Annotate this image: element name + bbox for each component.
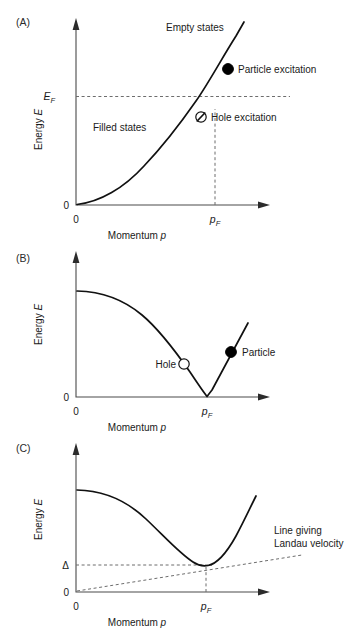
panel-a-y-axis-arrow	[73, 18, 80, 30]
panel-a-empty-states-label: Empty states	[166, 22, 224, 33]
panel-b-quasiparticle-curve	[77, 291, 248, 397]
panel-b-x-axis-title: Momentum p	[108, 422, 167, 433]
three-panel-dispersion-figure: (A) Particle excitation Hole excitation …	[0, 0, 358, 638]
panel-b-xtick-origin: 0	[73, 406, 79, 417]
panel-a: (A) Particle excitation Hole excitation …	[16, 16, 316, 241]
panel-a-xtick-fermi-momentum: pF	[209, 213, 221, 228]
panel-c-landau-annotation-line2: Landau velocity	[274, 538, 344, 549]
panel-a-y-axis-title: Energy E	[33, 109, 44, 150]
panel-c-gapped-dispersion-curve	[77, 490, 256, 566]
panel-b-xtick-fermi-momentum: pF	[201, 405, 213, 420]
panel-b: (B) Hole Particle 0 0 pF Energy E Moment…	[16, 251, 276, 433]
panel-c-label: (C)	[16, 442, 31, 454]
panel-c-y-axis-arrow	[73, 443, 80, 455]
panel-c: (C) Line giving Landau velocity Δ 0 0 pF…	[16, 442, 344, 628]
panel-b-hole-label: Hole	[155, 359, 176, 370]
panel-a-x-axis-title: Momentum p	[108, 230, 167, 241]
panel-a-ytick-zero: 0	[63, 200, 69, 211]
panel-c-y-axis-title: Energy E	[33, 499, 44, 540]
panel-a-xtick-origin: 0	[73, 214, 79, 225]
panel-b-y-axis-arrow	[73, 251, 80, 263]
panel-c-x-axis-title: Momentum p	[108, 617, 167, 628]
panel-a-hole-excitation-label: Hole excitation	[211, 112, 277, 123]
panel-a-x-axis-arrow	[258, 202, 270, 209]
panel-a-label: (A)	[16, 16, 30, 28]
panel-c-axes	[76, 455, 262, 592]
panel-b-particle-label: Particle	[242, 347, 276, 358]
panel-b-hole-marker	[179, 359, 189, 369]
panel-b-axes	[76, 263, 262, 397]
panel-a-filled-states-label: Filled states	[93, 122, 146, 133]
panel-a-ytick-fermi-energy: EF	[43, 90, 55, 105]
panel-c-x-axis-arrow	[258, 589, 270, 596]
panel-b-y-axis-title: Energy E	[33, 304, 44, 345]
panel-b-particle-marker	[226, 347, 237, 358]
panel-b-x-axis-arrow	[258, 394, 270, 401]
panel-c-ytick-gap: Δ	[62, 560, 69, 571]
panel-a-particle-excitation-label: Particle excitation	[238, 64, 316, 75]
panel-a-particle-excitation-marker	[223, 64, 234, 75]
panel-b-label: (B)	[16, 252, 30, 264]
panel-c-xtick-origin: 0	[73, 601, 79, 612]
panel-c-xtick-fermi-momentum: pF	[200, 600, 212, 615]
panel-c-ytick-zero: 0	[63, 587, 69, 598]
panel-b-ytick-zero: 0	[63, 392, 69, 403]
panel-c-landau-annotation-line1: Line giving	[274, 525, 322, 536]
